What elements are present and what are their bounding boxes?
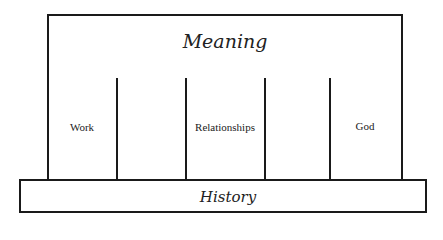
roof-label: Meaning [183,30,268,52]
pillar-work: Work [70,121,94,133]
foundation-label: History [200,188,256,206]
pillar-divider-1 [116,78,118,180]
pillar-relationships: Relationships [195,121,255,133]
pillar-god: God [356,120,375,132]
pillar-divider-4 [329,78,331,180]
pillar-divider-3 [264,78,266,180]
pillar-divider-2 [185,78,187,180]
